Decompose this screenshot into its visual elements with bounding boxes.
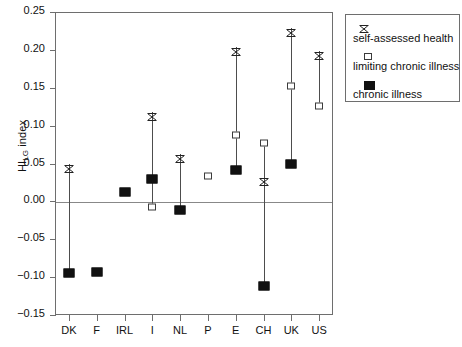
x-axis-tick-mark (208, 315, 209, 321)
series-connector-line (152, 112, 153, 207)
y-axis-tick-label: 0.10 (24, 118, 45, 130)
zero-reference-line (56, 202, 332, 203)
legend-entry-self-assessed-health: self-assessed health (353, 20, 459, 48)
data-point-marker (286, 159, 297, 168)
data-point-marker (230, 42, 241, 51)
x-axis-tick-mark (152, 315, 153, 321)
cross-marker-icon (358, 20, 370, 30)
y-axis-tick-label: 0.25 (24, 4, 45, 16)
y-axis-tick-mark (50, 12, 56, 13)
data-point-marker (175, 149, 186, 158)
data-point-marker (260, 140, 268, 147)
data-point-marker (63, 159, 74, 168)
legend-label: self-assessed health (353, 32, 453, 44)
legend-entry-limiting-chronic-illness: limiting chronic illness (353, 48, 459, 76)
y-axis-tick-label: −0.10 (17, 269, 45, 281)
data-point-marker (175, 206, 186, 215)
data-point-marker (63, 269, 74, 278)
chart-legend: self-assessed health limiting chronic il… (345, 14, 460, 102)
y-axis-tick-label: 0.00 (24, 193, 45, 205)
x-axis-tick-mark (69, 315, 70, 321)
data-point-marker (287, 83, 295, 90)
x-axis-tick-mark (291, 315, 292, 321)
y-axis-tick-label: −0.15 (17, 307, 45, 319)
data-point-marker (315, 102, 323, 109)
series-connector-line (291, 28, 292, 164)
y-axis-tick-mark (50, 239, 56, 240)
open-square-marker-icon (358, 48, 370, 58)
y-axis-tick-label: 0.15 (24, 80, 45, 92)
data-point-marker (286, 23, 297, 32)
legend-entry-chronic-illness: chronic illness (353, 76, 459, 104)
x-axis-tick-mark (236, 315, 237, 321)
data-point-marker (119, 187, 130, 196)
y-axis-tick-mark (50, 201, 56, 202)
chart-root: HILG index 0.250.200.150.100.050.00−0.05… (0, 0, 462, 347)
data-point-marker (148, 204, 156, 211)
y-axis-tick-label: −0.05 (17, 231, 45, 243)
y-axis-tick-mark (50, 277, 56, 278)
data-point-marker (314, 46, 325, 55)
y-axis-tick-mark (50, 164, 56, 165)
x-axis-tick-mark (319, 315, 320, 321)
data-point-marker (230, 166, 241, 175)
y-axis-tick-mark (50, 50, 56, 51)
series-connector-line (236, 47, 237, 170)
data-point-marker (91, 267, 102, 276)
x-axis-tick-mark (264, 315, 265, 321)
data-point-marker (147, 174, 158, 183)
legend-label: limiting chronic illness (353, 60, 459, 72)
y-axis-tick-label: 0.20 (24, 42, 45, 54)
filled-square-marker-icon (358, 76, 370, 86)
x-axis-tick-mark (97, 315, 98, 321)
x-axis-tick-mark (180, 315, 181, 321)
y-axis-tick-mark (50, 88, 56, 89)
x-axis-tick-label: US (299, 324, 339, 336)
data-point-marker (204, 172, 212, 179)
data-point-marker (258, 282, 269, 291)
data-point-marker (147, 107, 158, 116)
x-axis-tick-mark (125, 315, 126, 321)
data-point-marker (232, 132, 240, 139)
series-connector-line (69, 164, 70, 274)
legend-label: chronic illness (353, 88, 422, 100)
data-point-marker (258, 173, 269, 182)
y-axis-tick-label: 0.05 (24, 156, 45, 168)
y-axis-title: HILG index (16, 86, 28, 206)
y-axis-tick-mark (50, 126, 56, 127)
y-axis-tick-mark (50, 315, 56, 316)
series-connector-line (264, 143, 265, 286)
